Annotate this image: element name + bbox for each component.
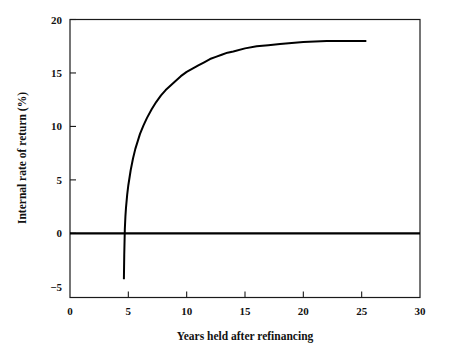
y-tick-label: −5 [50, 281, 62, 293]
y-tick-label: 10 [51, 120, 63, 132]
x-axis-title: Years held after refinancing [177, 330, 314, 343]
chart-container: 051015202530 −505101520 Years held after… [0, 0, 450, 357]
x-tick-label: 10 [181, 305, 193, 317]
x-tick-label: 15 [240, 305, 252, 317]
y-tick-label: 15 [51, 67, 63, 79]
y-tick-label: 0 [57, 227, 63, 239]
y-tick-label: 5 [57, 174, 63, 186]
x-tick-label: 25 [356, 305, 368, 317]
y-axis-title: Internal rate of return (%) [16, 92, 29, 224]
x-tick-label: 5 [126, 305, 132, 317]
x-tick-label: 0 [67, 305, 73, 317]
y-tick-label: 20 [51, 14, 63, 26]
irr-line-chart: 051015202530 −505101520 Years held after… [0, 0, 450, 357]
x-tick-label: 20 [298, 305, 310, 317]
x-tick-label: 30 [415, 305, 427, 317]
